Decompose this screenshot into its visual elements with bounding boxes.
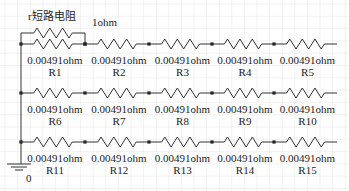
resistor-value-label: 0.00491ohm [91, 103, 146, 115]
resistor-value-label: 0.00491ohm [217, 54, 272, 66]
resistor-name-label: R15 [298, 164, 316, 176]
resistor-name-label: R1 [49, 66, 62, 78]
resistor-name-label: R12 [110, 164, 128, 176]
resistor-name-label: R13 [173, 164, 191, 176]
resistor-name-label: R7 [113, 115, 126, 127]
resistor-r10 [274, 88, 337, 98]
resistor-r2 [85, 39, 149, 49]
resistor-value-label: 0.00491ohm [155, 152, 210, 164]
wires [21, 28, 337, 147]
resistor-name-label: R2 [113, 66, 126, 78]
resistor-name-label: R8 [176, 115, 189, 127]
resistor-value-label: 0.00491ohm [27, 54, 82, 66]
resistor-name-label: R3 [176, 66, 189, 78]
resistor-name-label: R11 [46, 164, 64, 176]
resistor-value-label: 0.00491ohm [217, 103, 272, 115]
resistor-name-label: R14 [236, 164, 254, 176]
short-resistor-label: r短路电阻 [28, 10, 76, 22]
resistor-r6 [21, 88, 85, 98]
resistor-value-label: 0.00491ohm [27, 152, 82, 164]
short-resistor-value: 1ohm [92, 16, 117, 28]
resistor-r13 [149, 137, 212, 147]
resistor-value-label: 0.00491ohm [91, 152, 146, 164]
resistor-value-label: 0.00491ohm [280, 152, 335, 164]
resistor-name-label: R9 [239, 115, 252, 127]
resistor-value-label: 0.00491ohm [91, 54, 146, 66]
resistor-name-label: R10 [298, 115, 316, 127]
resistor-r14 [212, 137, 274, 147]
resistor-value-label: 0.00491ohm [217, 152, 272, 164]
ground-label: 0 [26, 172, 32, 184]
resistor-r9 [212, 88, 274, 98]
resistor-r8 [149, 88, 212, 98]
resistor-value-label: 0.00491ohm [155, 103, 210, 115]
resistor-name-label: R4 [239, 66, 252, 78]
resistor-r11 [21, 137, 85, 147]
resistor-value-label: 0.00491ohm [280, 54, 335, 66]
resistor-r5 [274, 39, 337, 49]
resistor-name-label: R5 [301, 66, 314, 78]
resistor-value-label: 0.00491ohm [155, 54, 210, 66]
resistor-r4 [212, 39, 274, 49]
resistor-r7 [85, 88, 149, 98]
resistor-r12 [85, 137, 149, 147]
resistor-r15 [274, 137, 337, 147]
resistor-name-label: R6 [49, 115, 62, 127]
resistor-value-label: 0.00491ohm [27, 103, 82, 115]
resistor-value-label: 0.00491ohm [280, 103, 335, 115]
resistor-r3 [149, 39, 212, 49]
resistor-r1 [21, 39, 85, 49]
